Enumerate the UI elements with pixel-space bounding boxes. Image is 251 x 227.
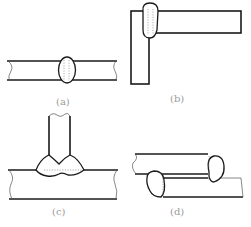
base-plate-left-break (9, 170, 13, 199)
lower-fillet-weld (147, 171, 165, 197)
plate-right-break (114, 61, 117, 80)
plate-left-break (8, 61, 12, 80)
corner-weld-bead (143, 3, 158, 38)
label-d: (d) (170, 206, 184, 217)
web-plate-break (49, 113, 70, 116)
upper-plate-break (132, 154, 136, 174)
label-c: (c) (52, 206, 66, 217)
weld-joint-diagram: (a) (b) (c) (d) (0, 0, 251, 227)
panel-d-lap-joint (132, 154, 243, 197)
base-plate-right-break (114, 170, 117, 199)
butt-weld-bead (59, 57, 76, 83)
fillet-weld-beads (36, 155, 84, 176)
panel-a-butt-weld (7, 57, 117, 83)
panel-b-corner-weld (131, 3, 241, 84)
label-a: (a) (56, 96, 70, 107)
panel-c-t-joint (8, 113, 118, 199)
label-b: (b) (170, 93, 184, 104)
horizontal-plate (149, 11, 241, 33)
lower-plate-right-edge (241, 178, 243, 197)
